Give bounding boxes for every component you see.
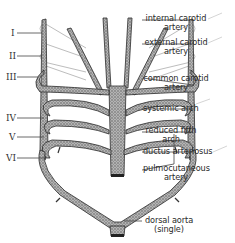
arch-numeral-2: II (9, 51, 16, 61)
arch-numeral-3: III (6, 72, 17, 82)
arch-numeral-6: VI (6, 153, 16, 163)
label-pulmocutaneous-artery: pulmocutaneous artery (143, 164, 209, 182)
label-systemic-arch: systemic arch (143, 104, 199, 113)
arch-numeral-1: I (11, 28, 15, 38)
arch-numeral-4: IV (6, 113, 16, 123)
label-external-carotid: external carotid artery (143, 38, 209, 56)
label-dorsal-aorta: dorsal aorta (single) (143, 216, 195, 234)
arch-numeral-5: V (9, 132, 16, 142)
label-reduced-fifth-arch: reduced fifth arch (143, 126, 199, 144)
label-ductus-arteriosus: ductus arteriosus (143, 147, 213, 156)
label-common-carotid: common carotid artery (143, 74, 209, 92)
label-internal-carotid: internal carotid artery (143, 14, 209, 32)
